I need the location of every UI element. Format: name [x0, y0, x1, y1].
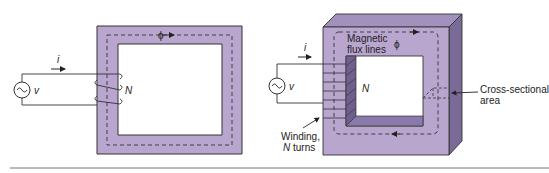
- winding-arrow-icon: [303, 118, 319, 128]
- right-turns-label: N: [362, 83, 370, 94]
- left-voltage-label: v: [34, 85, 40, 96]
- winding-label-2: N turns: [283, 142, 315, 153]
- right-flux-label: ϕ: [394, 39, 400, 50]
- right-core-top-face: [323, 14, 462, 27]
- left-core-figure: ϕ v i N: [14, 26, 242, 154]
- right-core-side-face: [449, 14, 462, 155]
- left-current-label: i: [57, 54, 60, 65]
- right-core-figure: Magnetic flux lines ϕ Cross-sectional ar…: [269, 14, 549, 155]
- left-bottom-wire: [22, 96, 97, 105]
- right-voltage-label: v: [289, 81, 295, 92]
- right-current-label: i: [304, 42, 307, 53]
- left-turns-label: N: [125, 85, 133, 96]
- cross-section-label-1: Cross-sectional: [480, 84, 549, 95]
- flux-lines-label-2: flux lines: [347, 44, 386, 55]
- transformer-core-diagram: ϕ v i N: [0, 0, 549, 173]
- flux-lines-label-1: Magnetic: [347, 33, 388, 44]
- cross-section-label-2: area: [480, 95, 500, 106]
- right-core-inner-bottom: [346, 116, 423, 126]
- winding-label-1: Winding,: [281, 131, 320, 142]
- right-bottom-wire: [277, 94, 323, 103]
- left-flux-label: ϕ: [158, 30, 164, 41]
- right-top-wire: [277, 64, 323, 78]
- right-core-inner-left: [346, 56, 356, 126]
